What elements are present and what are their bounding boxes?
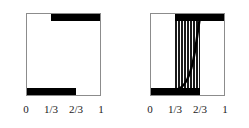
right-tick-0: 0: [147, 103, 153, 116]
right-tick-2-3: 2/3: [193, 103, 207, 116]
left-top-bar: [51, 14, 100, 21]
left-axis-labels: 0 1/3 2/3 1: [26, 103, 101, 123]
right-axis-labels: 0 1/3 2/3 1: [150, 103, 225, 123]
left-tick-1: 1: [98, 103, 104, 116]
left-bottom-bar: [27, 88, 76, 95]
left-plot-area: [27, 14, 100, 95]
left-tick-0: 0: [23, 103, 29, 116]
right-curve-layer: [151, 14, 224, 95]
right-plot-area: [151, 14, 224, 95]
figure-container: 0 1/3 2/3 1 0 1/3 2/3 1: [0, 0, 249, 128]
right-tick-1-3: 1/3: [168, 103, 182, 116]
left-plot-frame: [26, 13, 101, 96]
left-tick-2-3: 2/3: [69, 103, 83, 116]
increasing-convex-curve-path: [175, 20, 199, 90]
right-tick-1: 1: [222, 103, 228, 116]
right-plot-frame: [150, 13, 225, 96]
left-tick-1-3: 1/3: [44, 103, 58, 116]
